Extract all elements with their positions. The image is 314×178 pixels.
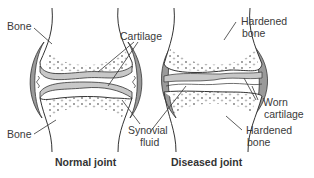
- label-synovial-fluid-1: Synovial: [128, 124, 168, 136]
- normal-lower-cartilage: [40, 82, 132, 98]
- label-cartilage: Cartilage: [120, 30, 162, 42]
- label-hardened-bone-bottom-1: Hardened: [246, 124, 292, 136]
- label-hardened-bone-top-1: Hardened: [241, 15, 287, 27]
- label-synovial-fluid-2: fluid: [140, 136, 159, 148]
- label-hardened-bone-bottom-2: bone: [247, 136, 270, 148]
- caption-normal-joint: Normal joint: [55, 156, 116, 168]
- label-bone-bottom: Bone: [7, 128, 32, 140]
- label-bone-top: Bone: [7, 20, 32, 32]
- caption-diseased-joint: Diseased joint: [171, 156, 242, 168]
- label-worn-cartilage-2: cartilage: [264, 108, 304, 120]
- label-hardened-bone-top-2: bone: [242, 27, 265, 39]
- label-worn-cartilage-1: Worn: [263, 96, 288, 108]
- diseased-worn-cartilage: [164, 72, 262, 82]
